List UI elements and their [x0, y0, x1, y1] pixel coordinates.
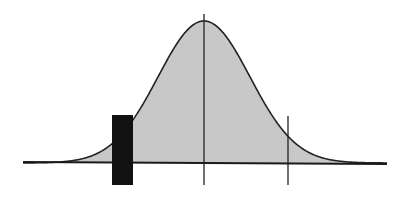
- normal-distribution-diagram: [0, 0, 408, 202]
- left-marker-block: [112, 115, 133, 185]
